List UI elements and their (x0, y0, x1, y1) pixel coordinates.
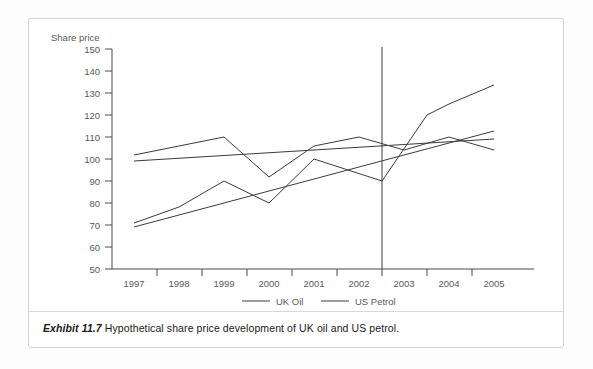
series-line-uk-oil (134, 137, 494, 177)
trend-line-us-petrol (134, 131, 494, 227)
legend-label-uk-oil: UK Oil (276, 296, 303, 307)
figure-caption-label: Exhibit 11.7 (43, 322, 102, 334)
x-tick-label-2005: 2005 (483, 278, 504, 289)
x-tick-label-2002: 2002 (348, 278, 369, 289)
x-tick-label-2003: 2003 (393, 278, 414, 289)
chart-area: Share price 150 140 130 120 110 100 (29, 19, 565, 309)
y-tick-label-50: 50 (89, 264, 100, 275)
y-tick-label-110: 110 (85, 132, 100, 143)
x-tick-label-2000: 2000 (258, 278, 279, 289)
chart-legend: UK Oil US Petrol (242, 296, 396, 307)
line-chart-svg: Share price 150 140 130 120 110 100 (29, 19, 565, 309)
page-root: Share price 150 140 130 120 110 100 (0, 0, 593, 369)
x-tick-label-2001: 2001 (303, 278, 324, 289)
figure-caption: Exhibit 11.7 Hypothetical share price de… (43, 321, 543, 335)
x-tick-label-1999: 1999 (213, 278, 234, 289)
y-tick-label-90: 90 (89, 176, 100, 187)
caption-divider (29, 311, 563, 312)
y-tick-label-120: 120 (84, 110, 100, 121)
y-tick-label-80: 80 (89, 198, 100, 209)
x-tick-group: 1997 1998 1999 2000 2001 2002 2003 2004 … (123, 269, 504, 289)
x-tick-label-1998: 1998 (168, 278, 189, 289)
y-axis-title: Share price (51, 32, 100, 43)
x-tick-label-2004: 2004 (438, 278, 459, 289)
figure-frame: Share price 150 140 130 120 110 100 (28, 18, 564, 348)
y-tick-label-130: 130 (84, 88, 100, 99)
series-line-us-petrol (134, 85, 494, 223)
trend-line-uk-oil (134, 139, 494, 161)
y-tick-label-150: 150 (84, 44, 100, 55)
y-tick-label-60: 60 (89, 242, 100, 253)
figure-caption-text: Hypothetical share price development of … (105, 322, 399, 334)
y-tick-label-70: 70 (89, 220, 100, 231)
x-tick-label-1997: 1997 (123, 278, 144, 289)
y-tick-label-100: 100 (84, 154, 100, 165)
legend-label-us-petrol: US Petrol (355, 296, 396, 307)
y-tick-group: 150 140 130 120 110 100 90 80 (84, 44, 112, 275)
y-tick-label-140: 140 (84, 66, 100, 77)
